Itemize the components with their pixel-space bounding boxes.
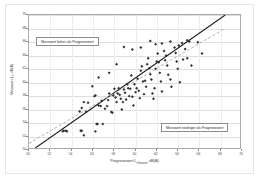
data-point [154,43,157,46]
data-point [146,63,149,66]
x-axis-title-sub: r,Strasse [136,161,147,165]
data-point [128,95,131,98]
data-point [175,60,178,63]
data-point [113,87,116,90]
x-tick-label: 68 [211,152,229,156]
x-axis-tick-labels: 5052545658606264666870 [28,152,241,158]
data-point [106,105,109,108]
chart-figure: 5052545658606264666870 50525456586062646… [0,0,259,178]
x-tick-label: 52 [40,152,58,156]
data-point [101,123,104,126]
data-point [140,65,143,68]
data-point [97,76,100,79]
data-point [137,89,140,92]
data-point [158,71,161,74]
data-point [115,101,118,104]
data-point [82,134,85,137]
data-point [153,87,156,90]
data-point [134,91,137,94]
x-tick-label: 62 [147,152,165,156]
data-point [151,92,154,95]
x-tickmark [156,149,157,151]
y-tick-label: 50 [2,147,26,151]
x-tick-label: 66 [189,152,207,156]
x-tickmark [92,149,93,151]
x-tick-label: 60 [126,152,144,156]
x-tickmark [28,149,29,151]
data-point [125,98,128,101]
x-tickmark [177,149,178,151]
annotation-above-line: Messwert höher als Prognosewert [36,37,99,46]
data-point [152,97,155,100]
data-point [182,58,185,61]
data-point [160,90,163,93]
data-point [108,71,111,74]
data-point [131,48,134,51]
data-point [82,101,85,104]
x-axis-title: Prognosewert Lr,Strasse, dB(A) [28,159,241,166]
data-point [174,51,177,54]
data-point [120,108,123,111]
data-point [160,42,163,45]
data-point [170,85,173,88]
data-point [163,49,166,52]
data-point [130,74,133,77]
data-point [87,101,90,104]
x-tickmark [220,149,221,151]
data-point [133,83,136,86]
x-tick-label: 64 [168,152,186,156]
y-axis-title-unit: , dB(A) [10,64,14,75]
data-point [156,52,159,55]
x-tick-label: 56 [83,152,101,156]
data-point [178,81,181,84]
data-point [124,91,127,94]
data-point [159,80,162,83]
data-point [166,64,169,67]
x-tickmark [49,149,50,151]
data-point [80,107,83,110]
data-point [143,93,146,96]
x-tickmark [71,149,72,151]
data-point [131,95,134,98]
data-point [139,46,142,49]
x-tickmark [135,149,136,151]
x-tick-label: 54 [62,152,80,156]
data-point [114,96,117,99]
data-point [149,39,152,42]
y-axis-title-main: Messwert L [10,76,14,95]
x-tick-label: 58 [104,152,122,156]
data-point [115,63,118,66]
data-point [169,78,172,81]
x-tickmark [113,149,114,151]
data-point [94,130,97,133]
data-point [139,69,142,72]
data-point [186,57,189,60]
data-point [164,59,167,62]
data-point [184,47,187,50]
x-axis-title-unit: , dB(A) [147,159,158,163]
data-point [196,41,199,44]
data-point [108,92,111,95]
x-axis-title-main: Prognosewert L [110,159,136,163]
data-point [173,46,176,49]
data-point [122,45,125,48]
data-point [132,104,135,107]
x-tickmark [241,149,242,151]
data-point [135,87,138,90]
data-point [201,52,204,55]
data-point [176,67,179,70]
data-point [103,107,106,110]
data-point [169,40,172,43]
data-point [145,85,148,88]
data-point [138,97,141,100]
annotation-below-line: Messwert niedriger als Prognosewert [161,123,228,132]
data-point [190,64,193,67]
data-point [122,88,125,91]
x-tickmark [198,149,199,151]
x-tick-label: 70 [232,152,250,156]
data-point [91,85,94,88]
y-axis-title: Messwert Lr, dB(A) [10,14,17,144]
data-point [107,99,110,102]
data-point [167,73,170,76]
data-point [78,110,81,113]
